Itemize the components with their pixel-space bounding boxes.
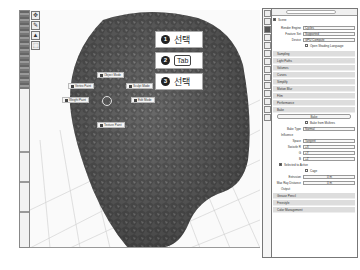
weight-paint-icon	[65, 99, 68, 102]
feature-set-row: Feature SetSupported	[273, 31, 355, 36]
properties-search-input[interactable]	[286, 10, 336, 14]
section-freestyle[interactable]: Freestyle	[273, 200, 355, 206]
box-select-icon[interactable]: ⬚	[31, 41, 40, 50]
space-row: SpaceTangent	[273, 138, 355, 143]
scene-icon	[273, 18, 276, 21]
extrusion-input[interactable]: 0 m	[303, 175, 355, 179]
brush-icon[interactable]: ✎	[31, 21, 40, 30]
section-bake[interactable]: Bake	[273, 107, 355, 113]
multires-checkbox[interactable]	[305, 121, 308, 124]
device-row: DeviceGPU Compute	[273, 37, 355, 42]
texture-tab-icon[interactable]	[264, 114, 271, 121]
bake-button[interactable]: Bake	[277, 114, 351, 119]
modifier-tab-icon[interactable]	[264, 66, 271, 73]
section-performance[interactable]: Performance	[273, 100, 355, 106]
step-1-callout: 1 선택	[155, 31, 203, 48]
bake-type-row: Bake TypeNormal	[273, 126, 355, 131]
influence-label: Influence	[273, 132, 355, 137]
swizzle-g-row: G+Y	[273, 150, 355, 155]
tab-key-icon: Tab	[174, 55, 191, 66]
sculpt-icon	[129, 85, 132, 88]
swizzle-r-select[interactable]: +X	[303, 145, 355, 149]
pie-item-edit-mode[interactable]: Edit Mode	[131, 97, 155, 103]
divider	[20, 181, 29, 183]
section-curves[interactable]: Curves	[273, 72, 355, 78]
render-properties: Scene Render EngineCycles Feature SetSup…	[273, 17, 355, 214]
divider	[20, 151, 29, 153]
divider	[20, 211, 29, 213]
pie-center-indicator	[102, 96, 112, 106]
bake-type-select[interactable]: Normal	[303, 127, 355, 131]
section-film[interactable]: Film	[273, 93, 355, 99]
pie-item-vertex-paint[interactable]: Vertex Paint	[68, 83, 94, 89]
cage-checkbox[interactable]	[305, 169, 308, 172]
tool-tab-icon[interactable]	[264, 10, 271, 17]
feature-set-select[interactable]: Supported	[303, 32, 355, 36]
move-icon[interactable]: ✥	[31, 11, 40, 20]
section-light-paths[interactable]: Light Paths	[273, 58, 355, 64]
object-tab-icon[interactable]	[264, 58, 271, 65]
render-engine-row: Render EngineCycles	[273, 25, 355, 30]
pie-item-sculpt-mode[interactable]: Sculpt Mode	[126, 83, 153, 89]
step-number: 3	[161, 77, 170, 86]
swizzle-b-row: B+Z	[273, 156, 355, 161]
world-tab-icon[interactable]	[264, 50, 271, 57]
section-grease-pencil[interactable]: Grease Pencil	[273, 193, 355, 199]
view-layer-tab-icon[interactable]	[264, 34, 271, 41]
material-tab-icon[interactable]	[264, 106, 271, 113]
osl-row[interactable]: Open Shading Language	[273, 43, 355, 48]
section-volumes[interactable]: Volumes	[273, 65, 355, 71]
tool-shelf: ✥ ✎ ▲ ⬚	[31, 11, 40, 50]
space-select[interactable]: Tangent	[303, 139, 355, 143]
step-number: 2	[161, 56, 170, 65]
max-ray-input[interactable]: 0 m	[303, 181, 355, 185]
blender-window: ✥ ✎ ▲ ⬚ Object Mode Vertex Paint Sculpt …	[0, 0, 360, 270]
step-text: 선택	[174, 33, 190, 46]
texture-paint-icon	[100, 124, 103, 127]
properties-tabs	[263, 9, 272, 257]
swizzle-b-select[interactable]: +Z	[303, 157, 355, 161]
device-select[interactable]: GPU Compute	[303, 38, 355, 42]
pie-item-texture-paint[interactable]: Texture Paint	[97, 122, 125, 128]
selected-to-active-checkbox[interactable]	[279, 163, 282, 166]
properties-panel: Scene Render EngineCycles Feature SetSup…	[262, 8, 358, 258]
step-number: 1	[161, 35, 170, 44]
step-text: 선택	[174, 75, 190, 88]
scene-tab-icon[interactable]	[264, 42, 271, 49]
particles-tab-icon[interactable]	[264, 74, 271, 81]
outliner-strip	[19, 10, 30, 248]
scene-row: Scene	[273, 17, 355, 22]
max-ray-row: Max Ray Distance0 m	[273, 180, 355, 185]
constraints-tab-icon[interactable]	[264, 90, 271, 97]
texture-thumbnail	[20, 11, 29, 89]
vertex-paint-icon	[71, 85, 74, 88]
output-subsection[interactable]: Output	[273, 186, 355, 191]
section-motion-blur[interactable]: Motion Blur	[273, 86, 355, 92]
output-tab-icon[interactable]	[264, 26, 271, 33]
pie-item-object-mode[interactable]: Object Mode	[97, 72, 124, 78]
render-engine-select[interactable]: Cycles	[303, 26, 355, 30]
object-icon	[100, 74, 103, 77]
cage-row[interactable]: Cage	[273, 168, 355, 173]
properties-header	[272, 9, 357, 16]
step-3-callout: 3 선택	[155, 73, 203, 90]
render-tab-icon[interactable]	[264, 18, 271, 25]
multires-row[interactable]: Bake from Multires	[273, 120, 355, 125]
swizzle-g-select[interactable]: +Y	[303, 151, 355, 155]
section-color-management[interactable]: Color Management	[273, 207, 355, 213]
selected-to-active-row[interactable]: Selected to Active	[273, 162, 355, 167]
data-tab-icon[interactable]	[264, 98, 271, 105]
section-sampling[interactable]: Sampling	[273, 51, 355, 57]
physics-tab-icon[interactable]	[264, 82, 271, 89]
step-2-callout: 2 Tab	[155, 52, 203, 69]
select-icon[interactable]: ▲	[31, 31, 40, 40]
section-simplify[interactable]: Simplify	[273, 79, 355, 85]
3d-viewport[interactable]	[30, 10, 260, 248]
extrusion-row: Extrusion0 m	[273, 174, 355, 179]
edit-mode-icon	[134, 99, 137, 102]
pie-item-weight-paint[interactable]: Weight Paint	[62, 97, 89, 103]
osl-checkbox[interactable]	[305, 44, 308, 47]
swizzle-r-row: Swizzle R+X	[273, 144, 355, 149]
